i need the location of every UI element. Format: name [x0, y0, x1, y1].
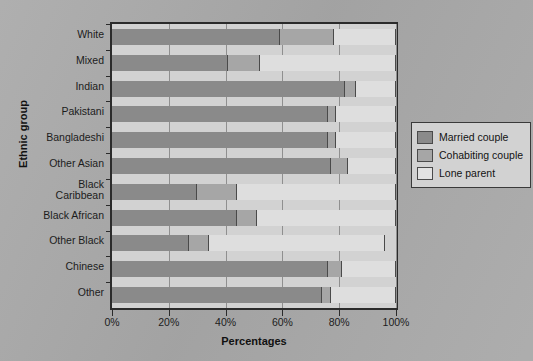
y-axis-tick [106, 153, 112, 154]
bar-row [112, 235, 396, 251]
x-axis-title: Percentages [110, 335, 398, 347]
bar-segment-lone [348, 158, 396, 174]
bar-row [112, 55, 396, 71]
chart-title [150, 0, 400, 9]
bar-segment-cohab [197, 184, 237, 200]
y-axis-tick [106, 282, 112, 283]
x-axis-label: 40% [206, 316, 246, 328]
y-axis-label: White [18, 29, 104, 40]
y-axis-label: Indian [18, 81, 104, 92]
bar-segment-lone [237, 184, 396, 200]
legend-item[interactable]: Married couple [417, 128, 526, 146]
legend-swatch-icon [417, 167, 433, 180]
bar-segment-cohab [331, 158, 348, 174]
bar-segment-lone [209, 235, 385, 251]
bar-segment-lone [336, 106, 396, 122]
x-axis-label: 80% [319, 316, 359, 328]
bar-segment-married [112, 235, 189, 251]
bar-row [112, 29, 396, 45]
bar-segment-cohab [322, 287, 331, 303]
x-axis-label: 100% [376, 316, 416, 328]
bar-segment-lone [356, 81, 396, 97]
bar-segment-lone [260, 55, 396, 71]
y-axis-tick [106, 50, 112, 51]
bar-segment-cohab [189, 235, 209, 251]
bar-segment-lone [331, 287, 396, 303]
legend-item[interactable]: Lone parent [417, 164, 526, 182]
chart-legend: Married coupleCohabiting coupleLone pare… [411, 122, 531, 188]
gridline [396, 24, 397, 308]
y-axis-tick [106, 76, 112, 77]
bar-row [112, 261, 396, 277]
y-axis-tick [106, 231, 112, 232]
bar-segment-cohab [280, 29, 334, 45]
legend-label: Cohabiting couple [439, 149, 523, 161]
bar-segment-married [112, 106, 328, 122]
bar-row [112, 184, 396, 200]
y-axis-label: Pakistani [18, 106, 104, 117]
bar-segment-cohab [328, 132, 337, 148]
legend-label: Married couple [439, 131, 508, 143]
bar-row [112, 106, 396, 122]
bar-segment-married [112, 158, 331, 174]
plot-area [110, 22, 398, 310]
legend-swatch-icon [417, 131, 433, 144]
bar-segment-married [112, 287, 322, 303]
chart-figure: WhiteMixedIndianPakistaniBangladeshiOthe… [0, 0, 533, 361]
bar-row [112, 158, 396, 174]
bar-row [112, 210, 396, 226]
y-axis-label: Other [18, 287, 104, 298]
legend-swatch-icon [417, 149, 433, 162]
x-axis-label: 60% [262, 316, 302, 328]
bar-segment-married [112, 55, 228, 71]
y-axis-label: Mixed [18, 55, 104, 66]
bar-segment-lone [334, 29, 396, 45]
bar-segment-married [112, 132, 328, 148]
y-axis-tick [106, 205, 112, 206]
bar-segment-cohab [228, 55, 259, 71]
legend-label: Lone parent [439, 167, 495, 179]
y-axis-title: Ethnic group [17, 89, 29, 179]
y-axis-tick [106, 101, 112, 102]
bar-segment-cohab [328, 261, 342, 277]
bar-segment-cohab [345, 81, 356, 97]
bar-segment-married [112, 29, 280, 45]
bar-segment-lone [342, 261, 396, 277]
y-axis-label: Black African [18, 210, 104, 221]
bar-segment-lone [257, 210, 396, 226]
x-axis-label: 0% [92, 316, 132, 328]
bar-segment-married [112, 261, 328, 277]
bar-segment-married [112, 210, 237, 226]
y-axis-label: Other Asian [18, 158, 104, 169]
bar-row [112, 132, 396, 148]
y-axis-tick [106, 179, 112, 180]
y-axis-labels: WhiteMixedIndianPakistaniBangladeshiOthe… [18, 22, 104, 310]
x-axis-label: 20% [149, 316, 189, 328]
bar-row [112, 81, 396, 97]
bar-segment-married [112, 81, 345, 97]
legend-item[interactable]: Cohabiting couple [417, 146, 526, 164]
bar-segment-cohab [237, 210, 257, 226]
y-axis-label: BlackCaribbean [18, 179, 104, 201]
y-axis-tick [106, 24, 112, 25]
bar-segment-cohab [328, 106, 337, 122]
y-axis-label: Bangladeshi [18, 132, 104, 143]
bar-segment-married [112, 184, 197, 200]
bar-segment-lone [336, 132, 396, 148]
y-axis-tick [106, 127, 112, 128]
y-axis-label: Chinese [18, 261, 104, 272]
bar-row [112, 287, 396, 303]
x-axis-tick-labels: 0%20%40%60%80%100% [110, 316, 398, 332]
y-axis-tick [106, 256, 112, 257]
y-axis-label: Other Black [18, 235, 104, 246]
